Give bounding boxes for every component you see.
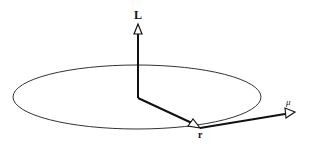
label-L: L bbox=[134, 8, 142, 22]
label-r: r bbox=[198, 129, 203, 140]
angular-momentum-arrowhead-icon bbox=[134, 24, 142, 34]
magnetic-moment-arrowhead-icon bbox=[285, 108, 295, 118]
magnetic-moment-vector bbox=[200, 114, 285, 128]
position-arrowhead-icon bbox=[188, 119, 200, 128]
orbit-diagram: L r μ bbox=[0, 0, 311, 144]
position-vector bbox=[138, 98, 194, 124]
label-mu: μ bbox=[285, 97, 291, 107]
